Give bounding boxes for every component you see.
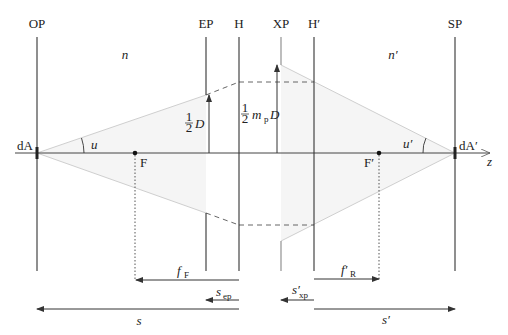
label-s: s bbox=[136, 313, 141, 328]
svg-text:2: 2 bbox=[242, 111, 249, 126]
label-s-ep: s ep bbox=[216, 284, 232, 301]
object-space-ray-cone bbox=[37, 95, 206, 213]
label-object-plane: OP bbox=[29, 16, 46, 31]
label-exit-pupil: XP bbox=[273, 16, 290, 31]
svg-text:D: D bbox=[194, 116, 205, 131]
svg-text:R: R bbox=[350, 269, 356, 279]
optical-system-diagram: OP EP H XP H′ SP n n′ dA dA′ z F F′ u u′… bbox=[0, 0, 508, 335]
svg-text:ep: ep bbox=[223, 291, 232, 301]
svg-text:D: D bbox=[269, 107, 280, 122]
svg-text:xp: xp bbox=[299, 290, 309, 300]
label-angle-u: u bbox=[91, 137, 98, 152]
svg-text:2: 2 bbox=[186, 120, 193, 135]
svg-text:m: m bbox=[252, 107, 261, 122]
label-principal-plane: H bbox=[234, 16, 243, 31]
label-rear-focus: F′ bbox=[364, 155, 374, 170]
label-sensor-plane: SP bbox=[448, 16, 462, 31]
label-half-mp-D: 1 2 m p D bbox=[241, 100, 280, 126]
label-z-axis: z bbox=[486, 154, 492, 169]
label-rear-principal-plane: H′ bbox=[308, 16, 320, 31]
image-element-marker bbox=[454, 147, 457, 159]
svg-text:F: F bbox=[184, 270, 189, 280]
label-angle-u-prime: u′ bbox=[403, 136, 413, 151]
label-f-R-prime: f′ R bbox=[341, 262, 356, 279]
label-dA-prime: dA′ bbox=[459, 138, 478, 153]
svg-text:p: p bbox=[264, 114, 269, 124]
svg-text:s: s bbox=[216, 284, 221, 299]
label-s-xp-prime: s′ xp bbox=[292, 282, 309, 300]
label-object-medium: n bbox=[122, 47, 129, 62]
svg-text:f: f bbox=[177, 263, 183, 278]
front-focal-point bbox=[133, 151, 138, 156]
label-front-focus: F bbox=[140, 155, 147, 170]
object-element-marker bbox=[36, 147, 39, 159]
label-dA: dA bbox=[17, 138, 34, 153]
rear-focal-point bbox=[377, 151, 382, 156]
label-s-prime: s′ bbox=[382, 312, 390, 327]
label-entrance-pupil: EP bbox=[198, 16, 213, 31]
label-image-medium: n′ bbox=[388, 47, 398, 62]
label-f-F: f F bbox=[177, 263, 189, 280]
svg-text:f′: f′ bbox=[341, 262, 348, 277]
